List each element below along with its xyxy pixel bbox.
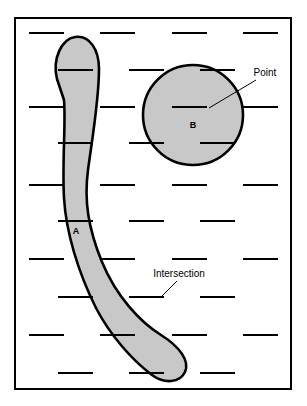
intersection-callout-label: Intersection bbox=[153, 268, 205, 279]
point-callout-label: Point bbox=[254, 67, 277, 78]
region-b-label: B bbox=[190, 120, 197, 130]
region-b-shape bbox=[143, 65, 243, 165]
scanline-diagram: A B Point Intersection bbox=[0, 0, 307, 406]
region-a-label: A bbox=[73, 226, 80, 236]
figure-canvas: A B Point Intersection bbox=[0, 0, 307, 406]
